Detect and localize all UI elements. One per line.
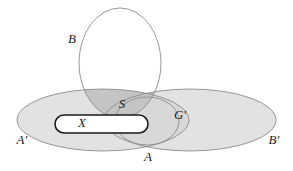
label-S: S [119, 96, 126, 111]
label-A-prime: A′ [16, 132, 28, 147]
label-A: A [143, 149, 152, 164]
rounded-rect-X [55, 115, 148, 133]
venn-diagram-figure: B S X G′ A′ B′ A [0, 0, 293, 171]
venn-diagram-canvas: B S X G′ A′ B′ A [0, 0, 293, 171]
label-B: B [68, 31, 76, 46]
label-X: X [77, 115, 87, 130]
label-G-prime: G′ [174, 107, 186, 122]
label-B-prime: B′ [269, 132, 280, 147]
